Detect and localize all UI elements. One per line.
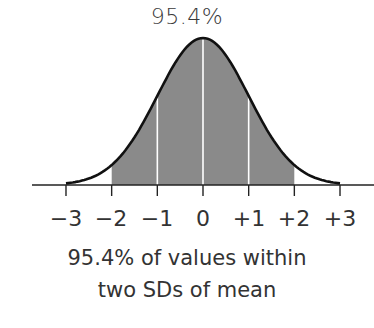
tick-label-plus-3: +3 [324, 206, 356, 231]
x-axis-ticks [66, 185, 340, 196]
tick-label-minus-3: −3 [50, 206, 82, 231]
caption-line-2: two SDs of mean [0, 274, 374, 306]
chart-caption: 95.4% of values within two SDs of mean [0, 242, 374, 306]
tick-label-minus-2: −2 [95, 206, 127, 231]
caption-line-1: 95.4% of values within [0, 242, 374, 274]
tick-label-plus-2: +2 [278, 206, 310, 231]
tick-label-minus-1: −1 [141, 206, 173, 231]
tick-label-plus-1: +1 [233, 206, 265, 231]
tick-label-0: 0 [196, 206, 210, 231]
